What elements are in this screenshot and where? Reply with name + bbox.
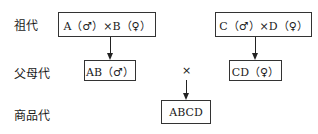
box-ab-cross: A（♂）×B（♀） — [58, 12, 156, 37]
box-ab-male-text: AB（♂） — [86, 63, 134, 79]
box-ab-cross-text: A（♂）×B（♀） — [63, 17, 150, 33]
label-parent: 父母代 — [14, 64, 50, 81]
arrow-head-ab-icon — [107, 53, 113, 60]
arrow-head-abcd-icon — [183, 93, 189, 100]
arrow-line-abcd — [186, 80, 187, 94]
arrow-line-ab — [110, 37, 111, 54]
label-grandparent: 祖代 — [14, 16, 38, 33]
box-cd-female-text: CD（♀） — [232, 63, 279, 79]
box-ab-male: AB（♂） — [84, 60, 136, 81]
arrow-head-cd-icon — [252, 53, 258, 60]
box-cd-female: CD（♀） — [229, 60, 282, 81]
label-commercial: 商品代 — [14, 106, 50, 123]
box-abcd-text: ABCD — [169, 106, 202, 119]
box-cd-cross: C（♂）×D（♀） — [215, 12, 312, 37]
box-abcd: ABCD — [161, 100, 211, 124]
arrow-line-cd — [255, 37, 256, 54]
box-cd-cross-text: C（♂）×D（♀） — [219, 17, 307, 33]
cross-symbol-icon: × — [182, 64, 191, 77]
